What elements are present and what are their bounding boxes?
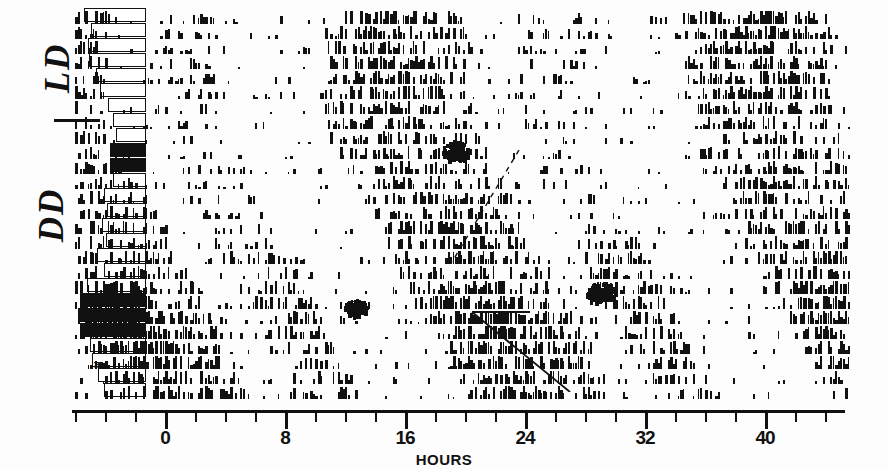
activity-bar	[183, 156, 185, 159]
activity-bar	[568, 342, 571, 354]
activity-bar	[428, 106, 431, 114]
activity-bar	[470, 184, 472, 189]
axis-tick-minor	[315, 413, 317, 422]
activity-bar	[600, 185, 602, 189]
activity-bar	[508, 79, 511, 84]
activity-bar	[378, 92, 380, 99]
activity-bar	[345, 126, 348, 129]
activity-bar	[435, 162, 437, 174]
activity-bar	[833, 137, 836, 144]
activity-bar	[240, 366, 243, 369]
activity-bar	[800, 110, 802, 114]
activity-bar	[455, 212, 457, 219]
activity-bar	[563, 60, 565, 69]
activity-bar	[755, 350, 757, 354]
activity-cluster	[457, 152, 461, 154]
activity-bar	[728, 214, 731, 219]
activity-bar	[585, 107, 587, 114]
activity-bar	[423, 290, 425, 294]
axis-tick-minor	[795, 413, 797, 422]
activity-bar	[705, 169, 707, 174]
activity-bar	[645, 312, 648, 324]
activity-bar	[455, 350, 457, 354]
activity-bar	[300, 361, 302, 369]
activity-bar	[653, 316, 655, 324]
x-axis-inner: HOURS 0816243240	[0, 394, 888, 469]
activity-bar	[820, 195, 823, 204]
activity-bar	[168, 289, 170, 294]
activity-bar	[540, 342, 543, 354]
activity-bar	[765, 244, 767, 249]
activity-bar	[848, 357, 850, 369]
activity-bar	[90, 183, 92, 189]
activity-bar	[163, 273, 166, 279]
activity-bar	[490, 346, 492, 354]
activity-bar	[488, 359, 491, 369]
activity-bar	[248, 306, 251, 309]
activity-bar	[95, 311, 97, 324]
activity-bar	[560, 168, 563, 174]
activity-bar	[765, 307, 768, 309]
activity-bar	[233, 186, 235, 189]
activity-bar	[390, 162, 393, 174]
activity-bar	[398, 43, 401, 54]
activity-bar	[808, 229, 810, 234]
activity-bar	[85, 304, 88, 309]
activity-bar	[678, 93, 680, 99]
activity-bar	[658, 37, 661, 39]
activity-bar	[148, 78, 150, 84]
activity-bar	[300, 332, 302, 339]
activity-bar	[848, 185, 850, 189]
activity-bar	[710, 147, 712, 159]
activity-bar	[660, 18, 662, 24]
activity-bar	[203, 314, 205, 324]
activity-bar	[425, 183, 428, 189]
activity-bar	[113, 357, 116, 369]
activity-bar	[690, 229, 693, 234]
activity-bar	[480, 296, 482, 309]
activity-bar	[773, 349, 776, 354]
activity-bar	[493, 34, 496, 39]
activity-bar	[85, 11, 88, 24]
activity-bar	[488, 196, 490, 204]
activity-bar	[128, 361, 130, 369]
activity-bar	[500, 342, 502, 354]
activity-bar	[200, 291, 203, 294]
activity-bar	[573, 122, 576, 129]
activity-bar	[238, 259, 240, 264]
activity-bar	[125, 345, 127, 354]
activity-bar	[448, 125, 450, 129]
activity-bar	[400, 155, 403, 159]
activity-bar	[103, 134, 106, 144]
activity-bar	[368, 381, 370, 384]
activity-bar	[615, 315, 617, 324]
activity-bar	[623, 108, 625, 114]
activity-bar	[138, 266, 140, 279]
activity-bar	[790, 311, 792, 324]
activity-bar	[438, 176, 440, 189]
activity-bar	[795, 316, 797, 324]
activity-bar	[588, 239, 590, 249]
activity-bar	[238, 67, 241, 69]
axis-tick-minor	[255, 413, 257, 422]
activity-bar	[523, 238, 526, 249]
activity-bar	[205, 346, 208, 354]
activity-bar	[308, 20, 310, 24]
activity-bar	[743, 63, 745, 69]
activity-bar	[543, 51, 546, 54]
activity-bar	[93, 344, 95, 354]
activity-bar	[695, 126, 698, 129]
activity-bar	[548, 260, 550, 264]
activity-bar	[578, 240, 581, 249]
activity-bar	[470, 47, 473, 54]
activity-bar	[335, 107, 337, 114]
activity-bar	[648, 260, 651, 264]
activity-bar	[105, 376, 108, 384]
activity-bar	[623, 197, 625, 204]
activity-cluster	[468, 151, 472, 155]
activity-bar	[95, 41, 98, 54]
activity-bar	[433, 63, 435, 69]
activity-bar	[328, 120, 330, 129]
activity-bar	[830, 161, 832, 174]
activity-bar	[75, 185, 78, 189]
